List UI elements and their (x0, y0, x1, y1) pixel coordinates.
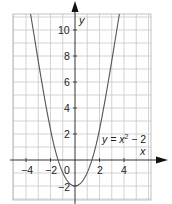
y-tick-label: 6 (64, 76, 70, 88)
curve-label-suffix: − 2 (128, 133, 146, 145)
y-axis-label: y (78, 14, 86, 26)
x-axis-arrow-icon (156, 157, 168, 164)
x-tick-label: 0 (64, 164, 70, 176)
x-tick-label: 4 (121, 164, 127, 176)
grid (13, 14, 151, 200)
x-tick-label: −2 (45, 164, 57, 176)
y-tick-label: 4 (64, 102, 70, 114)
parabola-chart: −4 −2 0 2 4 10 8 6 4 2 −2 y x y = x2 − 2 (0, 0, 172, 204)
y-tick-label: 8 (64, 50, 70, 62)
x-axis-label: x (139, 145, 146, 157)
x-tick-label: −4 (21, 164, 33, 176)
y-tick-label: −2 (58, 181, 70, 193)
y-tick-label: 2 (64, 128, 70, 140)
y-axis-arrow-icon (72, 1, 79, 12)
curve-label-prefix: y = x (101, 133, 125, 145)
y-tick-label: 10 (58, 24, 70, 36)
curve-label: y = x2 − 2 (101, 133, 146, 145)
x-tick-label: 2 (97, 164, 103, 176)
